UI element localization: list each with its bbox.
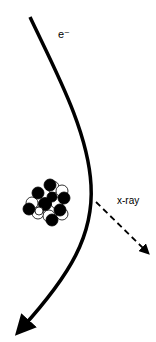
bremsstrahlung-diagram: e⁻ x-ray (0, 0, 156, 342)
xray-arrow (96, 202, 146, 251)
electron-label: e⁻ (58, 28, 70, 40)
nucleus (23, 179, 70, 226)
electron-path (22, 17, 91, 328)
xray-label: x-ray (117, 195, 139, 206)
